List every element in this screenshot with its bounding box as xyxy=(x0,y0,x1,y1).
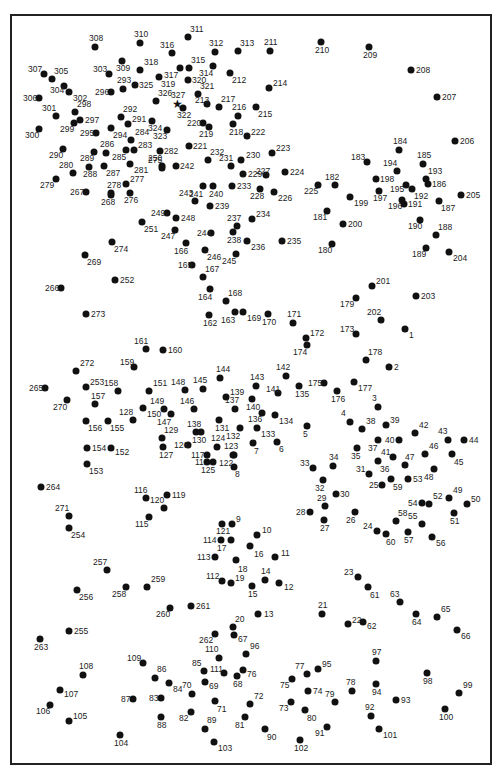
dot-107[interactable] xyxy=(57,687,64,694)
dot-14[interactable] xyxy=(262,577,269,584)
dot-278[interactable] xyxy=(108,190,115,197)
dot-67[interactable] xyxy=(231,632,238,639)
dot-272[interactable] xyxy=(73,368,80,375)
dot-108[interactable] xyxy=(80,672,87,679)
dot-202[interactable] xyxy=(378,317,385,324)
dot-76[interactable] xyxy=(240,667,247,674)
dot-124[interactable] xyxy=(214,444,221,451)
dot-232[interactable] xyxy=(205,157,212,164)
dot-149[interactable] xyxy=(161,406,168,413)
dot-73[interactable] xyxy=(288,699,295,706)
dot-116[interactable] xyxy=(143,495,150,502)
dot-40[interactable] xyxy=(396,437,403,444)
dot-114[interactable] xyxy=(218,537,225,544)
dot-283[interactable] xyxy=(131,147,138,154)
dot-264[interactable] xyxy=(38,484,45,491)
dot-280[interactable] xyxy=(70,170,77,177)
dot-242[interactable] xyxy=(173,163,180,170)
dot-84[interactable] xyxy=(166,680,173,687)
dot-216[interactable] xyxy=(235,113,242,120)
dot-123[interactable] xyxy=(231,452,238,459)
dot-298[interactable] xyxy=(72,109,79,116)
dot-145[interactable] xyxy=(200,386,207,393)
dot-311[interactable] xyxy=(185,34,192,41)
dot-12[interactable] xyxy=(276,580,283,587)
dot-214[interactable] xyxy=(266,85,273,92)
dot-72[interactable] xyxy=(247,701,254,708)
dot-65[interactable] xyxy=(434,614,441,621)
dot-310[interactable] xyxy=(137,40,144,47)
dot-171[interactable] xyxy=(290,320,297,327)
dot-142[interactable] xyxy=(283,373,290,380)
dot-66[interactable] xyxy=(454,627,461,634)
dot-95[interactable] xyxy=(315,666,322,673)
dot-305[interactable] xyxy=(49,76,56,83)
dot-222[interactable] xyxy=(244,133,251,140)
dot-185[interactable] xyxy=(420,161,427,168)
dot-58[interactable] xyxy=(393,518,400,525)
dot-129[interactable] xyxy=(159,435,166,442)
dot-20[interactable] xyxy=(230,624,237,631)
dot-236[interactable] xyxy=(244,238,251,245)
dot-44[interactable] xyxy=(461,437,468,444)
dot-148[interactable] xyxy=(182,387,189,394)
dot-49[interactable] xyxy=(446,495,453,502)
dot-139[interactable] xyxy=(223,394,230,401)
dot-30[interactable] xyxy=(333,491,340,498)
dot-235[interactable] xyxy=(279,238,286,245)
dot-152[interactable] xyxy=(108,445,115,452)
dot-248[interactable] xyxy=(173,215,180,222)
dot-103[interactable] xyxy=(211,739,218,746)
dot-24[interactable] xyxy=(374,528,381,535)
dot-182[interactable] xyxy=(332,182,339,189)
dot-78[interactable] xyxy=(349,688,356,695)
dot-302[interactable] xyxy=(66,89,73,96)
dot-119[interactable] xyxy=(164,492,171,499)
dot-318[interactable] xyxy=(137,67,144,74)
dot-29[interactable] xyxy=(322,503,329,510)
dot-217[interactable] xyxy=(216,104,223,111)
dot-69[interactable] xyxy=(202,679,209,686)
dot-194[interactable] xyxy=(394,168,401,175)
dot-39[interactable] xyxy=(383,422,390,429)
dot-22[interactable] xyxy=(345,621,352,628)
dot-74[interactable] xyxy=(305,688,312,695)
dot-184[interactable] xyxy=(396,147,403,154)
dot-105[interactable] xyxy=(66,718,73,725)
dot-120[interactable] xyxy=(161,505,168,512)
dot-291[interactable] xyxy=(125,121,132,128)
dot-207[interactable] xyxy=(434,94,441,101)
dot-151[interactable] xyxy=(146,388,153,395)
dot-canvas[interactable]: 1234567891011121314151617181920212223242… xyxy=(0,0,504,775)
dot-77[interactable] xyxy=(304,671,311,678)
dot-79[interactable] xyxy=(332,699,339,706)
dot-198[interactable] xyxy=(373,176,380,183)
dot-204[interactable] xyxy=(446,249,453,256)
dot-23[interactable] xyxy=(355,574,362,581)
dot-43[interactable] xyxy=(445,437,452,444)
dot-325[interactable] xyxy=(132,82,139,89)
dot-21[interactable] xyxy=(319,611,326,618)
dot-83[interactable] xyxy=(158,695,165,702)
dot-133[interactable] xyxy=(254,425,261,432)
dot-85[interactable] xyxy=(201,668,208,675)
dot-134[interactable] xyxy=(272,412,279,419)
dot-13[interactable] xyxy=(255,611,262,618)
dot-17[interactable] xyxy=(228,537,235,544)
dot-54[interactable] xyxy=(419,500,426,507)
dot-233[interactable] xyxy=(229,183,236,190)
dot-284[interactable] xyxy=(128,137,135,144)
dot-16[interactable] xyxy=(247,543,254,550)
dot-259[interactable] xyxy=(144,584,151,591)
dot-110[interactable] xyxy=(216,655,223,662)
dot-234[interactable] xyxy=(249,216,256,223)
dot-99[interactable] xyxy=(456,690,463,697)
dot-41[interactable] xyxy=(390,454,397,461)
dot-91[interactable] xyxy=(324,724,331,731)
dot-320[interactable] xyxy=(185,77,192,84)
dot-252[interactable] xyxy=(112,277,119,284)
dot-286[interactable] xyxy=(103,150,110,157)
dot-138[interactable] xyxy=(198,429,205,436)
dot-211[interactable] xyxy=(267,48,274,55)
dot-243[interactable] xyxy=(192,198,199,205)
